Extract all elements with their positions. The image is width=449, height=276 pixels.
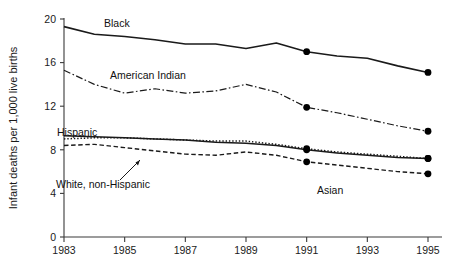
y-axis-title: Infant deaths per 1,000 live births [7, 46, 19, 209]
series-label-asian: Asian [317, 184, 343, 196]
y-tick-label: 20 [44, 13, 56, 25]
data-point-marker [425, 128, 432, 135]
y-tick-label: 8 [50, 144, 56, 156]
data-point-marker [303, 145, 310, 152]
data-point-marker [425, 170, 432, 177]
x-tick-label: 1987 [174, 244, 198, 256]
series-line-black [64, 27, 428, 73]
data-point-marker [303, 158, 310, 165]
chart-canvas: Infant deaths per 1,000 live births 0481… [0, 0, 449, 276]
x-tick-labels: 1983198519871989199119931995 [52, 237, 440, 256]
x-tick-label: 1989 [234, 244, 258, 256]
series-label-hispanic: Hispanic [57, 126, 97, 138]
y-tick-label: 16 [44, 56, 56, 68]
infant-mortality-line-chart: Infant deaths per 1,000 live births 0481… [0, 0, 449, 276]
x-tick-label: 1995 [416, 244, 440, 256]
series-label-white-non-hispanic: White, non-Hispanic [56, 178, 150, 190]
series-label-american-indian: American Indian [110, 69, 186, 81]
data-series-group [64, 27, 428, 174]
y-tick-label: 0 [50, 231, 56, 243]
data-point-marker [303, 104, 310, 111]
y-tick-label: 12 [44, 100, 56, 112]
series-line-asian [64, 144, 428, 173]
y-axis-title-group: Infant deaths per 1,000 live births [7, 46, 19, 209]
x-tick-label: 1993 [356, 244, 380, 256]
label-leader-lines [120, 160, 140, 180]
data-point-marker [425, 155, 432, 162]
axes-group [64, 18, 442, 237]
x-tick-label: 1985 [113, 244, 137, 256]
x-tick-label: 1983 [52, 244, 76, 256]
leader-arrowhead [136, 160, 141, 166]
series-label-black: Black [104, 17, 130, 29]
x-tick-label: 1991 [295, 244, 319, 256]
data-point-marker [303, 48, 310, 55]
data-point-marker [425, 69, 432, 76]
